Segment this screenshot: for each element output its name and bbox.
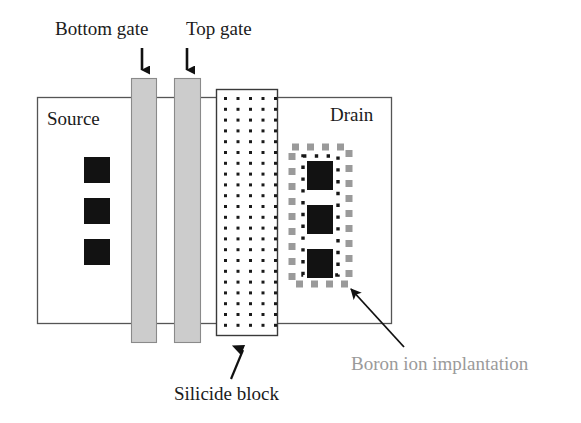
silicide-dot — [274, 151, 277, 154]
silicide-block-label: Silicide block — [174, 383, 279, 405]
silicide-dot — [249, 183, 252, 186]
silicide-dot — [274, 108, 277, 111]
silicide-dot — [224, 313, 227, 316]
silicide-dot — [249, 313, 252, 316]
silicide-dot — [237, 281, 240, 284]
silicide-dot — [249, 205, 252, 208]
silicide-dot — [262, 324, 265, 327]
source-contact — [84, 239, 110, 265]
silicide-dot — [224, 216, 227, 219]
silicide-dot — [224, 205, 227, 208]
silicide-dot — [224, 302, 227, 305]
silicide-dot — [274, 119, 277, 122]
silicide-dot — [224, 227, 227, 230]
silicide-dot — [237, 291, 240, 294]
top-gate-bar — [175, 79, 201, 343]
source-contact — [84, 198, 110, 224]
silicide-dot — [274, 237, 277, 240]
silicide-dot — [262, 281, 265, 284]
drain-contacts — [307, 161, 333, 278]
silicide-dot — [224, 248, 227, 251]
silicide-dot — [262, 216, 265, 219]
silicide-dot — [249, 291, 252, 294]
silicide-dot — [237, 119, 240, 122]
silicide-dot — [249, 108, 252, 111]
silicide-dot — [224, 119, 227, 122]
silicide-dot — [274, 194, 277, 197]
drain-label: Drain — [330, 104, 373, 126]
silicide-dot — [262, 205, 265, 208]
silicide-dot — [249, 302, 252, 305]
silicide-dot — [274, 270, 277, 273]
silicide-dot — [274, 129, 277, 132]
silicide-dot — [224, 291, 227, 294]
silicide-dot — [262, 227, 265, 230]
silicide-dot — [262, 194, 265, 197]
silicide-dot — [249, 151, 252, 154]
drain-contact — [307, 161, 333, 190]
silicide-dot — [262, 97, 265, 100]
silicide-dot — [274, 313, 277, 316]
silicide-dot — [262, 140, 265, 143]
silicide-dot — [249, 216, 252, 219]
silicide-dot — [274, 248, 277, 251]
silicide-dot — [274, 173, 277, 176]
silicide-dot — [224, 270, 227, 273]
silicide-dot — [249, 162, 252, 165]
silicide-dot — [237, 313, 240, 316]
silicide-dot — [274, 140, 277, 143]
silicide-dot — [274, 216, 277, 219]
device-schematic-figure: Bottom gate Top gate Source Drain Silici… — [0, 0, 581, 423]
silicide-dot — [237, 259, 240, 262]
source-contact — [84, 157, 110, 183]
silicide-dot — [237, 108, 240, 111]
source-contacts — [84, 157, 110, 265]
bottom-gate-label: Bottom gate — [55, 18, 148, 40]
silicide-dot — [249, 270, 252, 273]
silicide-dot — [237, 194, 240, 197]
silicide-dot — [224, 281, 227, 284]
silicide-dot — [274, 324, 277, 327]
silicide-dot — [274, 259, 277, 262]
silicide-dot — [249, 248, 252, 251]
top-gate-label: Top gate — [186, 18, 252, 40]
silicide-dot — [237, 162, 240, 165]
silicide-dot — [262, 313, 265, 316]
silicide-dot — [237, 324, 240, 327]
silicide-dot — [237, 270, 240, 273]
silicide-dot — [224, 259, 227, 262]
drain-contact — [307, 249, 333, 278]
silicide-dot — [249, 129, 252, 132]
silicide-dot — [262, 302, 265, 305]
silicide-dot — [262, 108, 265, 111]
silicide-dot — [224, 237, 227, 240]
silicide-dot — [249, 173, 252, 176]
silicide-dot — [262, 237, 265, 240]
silicide-dot — [224, 129, 227, 132]
silicide-dot — [237, 227, 240, 230]
silicide-dot — [237, 140, 240, 143]
silicide-dot — [237, 97, 240, 100]
silicide-dot — [249, 140, 252, 143]
silicide-dot — [274, 183, 277, 186]
silicide-dot — [237, 302, 240, 305]
silicide-block-arrow — [231, 350, 243, 379]
silicide-dot — [274, 97, 277, 100]
silicide-dot — [249, 97, 252, 100]
silicide-dot — [274, 205, 277, 208]
bottom-gate-bar — [132, 79, 157, 343]
silicide-dot — [224, 97, 227, 100]
silicide-dot — [237, 151, 240, 154]
silicide-dot — [249, 227, 252, 230]
silicide-dot — [237, 173, 240, 176]
source-label: Source — [47, 108, 100, 130]
silicide-dot — [224, 140, 227, 143]
silicide-dot — [274, 162, 277, 165]
silicide-dot — [262, 291, 265, 294]
silicide-dot — [249, 194, 252, 197]
silicide-dot — [262, 259, 265, 262]
boron-implantation-label: Boron ion implantation — [351, 353, 528, 375]
silicide-dot — [237, 216, 240, 219]
silicide-dot — [237, 237, 240, 240]
silicide-dot — [224, 173, 227, 176]
